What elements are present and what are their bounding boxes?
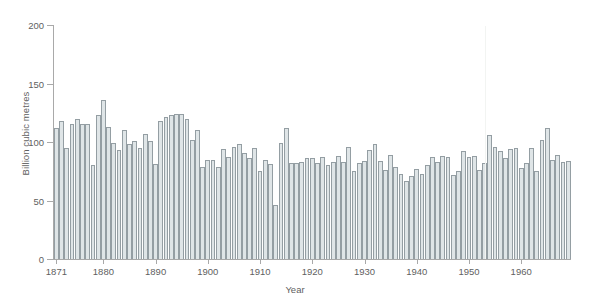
bar xyxy=(310,158,315,259)
bar xyxy=(138,148,143,259)
bar xyxy=(299,162,304,259)
bar xyxy=(367,150,372,259)
bar xyxy=(472,156,477,259)
x-tick-mark xyxy=(521,259,522,264)
bar xyxy=(132,141,137,259)
x-tick-mark xyxy=(56,259,57,264)
bar xyxy=(258,171,263,259)
bar xyxy=(555,155,560,259)
bar xyxy=(477,170,482,259)
bar xyxy=(393,167,398,259)
bar xyxy=(320,157,325,259)
bar xyxy=(529,148,534,259)
bar xyxy=(169,115,174,259)
bar xyxy=(106,127,111,259)
plot-area xyxy=(54,25,571,259)
bar xyxy=(519,168,524,259)
bar xyxy=(451,175,456,259)
bar xyxy=(399,174,404,259)
bar xyxy=(566,161,571,259)
bar xyxy=(279,143,284,259)
bar xyxy=(341,162,346,259)
x-tick-label: 1890 xyxy=(145,266,166,277)
bar xyxy=(91,165,96,259)
bar xyxy=(164,117,169,259)
bar xyxy=(284,128,289,259)
bar xyxy=(127,144,132,259)
bar xyxy=(64,148,69,259)
bar xyxy=(467,157,472,259)
x-tick-mark xyxy=(208,259,209,264)
y-tick-label: 150 xyxy=(4,78,44,89)
bar xyxy=(237,144,242,259)
bar xyxy=(362,161,367,259)
bar xyxy=(305,158,310,259)
bar xyxy=(195,130,200,259)
y-axis-title: Billion cubic metres xyxy=(20,24,31,244)
bar xyxy=(315,163,320,259)
bar xyxy=(80,124,85,259)
bar xyxy=(226,157,231,259)
bar xyxy=(70,124,75,259)
bar xyxy=(425,165,430,259)
y-tick-label: 50 xyxy=(4,195,44,206)
x-tick-mark xyxy=(312,259,313,264)
bar xyxy=(122,130,127,259)
bar xyxy=(273,205,278,259)
x-tick-label: 1910 xyxy=(249,266,270,277)
bar xyxy=(414,169,419,259)
bar xyxy=(326,165,331,259)
bar xyxy=(174,114,179,259)
x-tick-label: 1960 xyxy=(511,266,532,277)
bar xyxy=(404,181,409,259)
x-tick-mark xyxy=(417,259,418,264)
bar xyxy=(493,147,498,259)
bar xyxy=(96,115,101,259)
x-axis-title: Year xyxy=(0,284,590,295)
bar xyxy=(373,144,378,259)
bar xyxy=(242,153,247,259)
bar xyxy=(461,151,466,259)
bar xyxy=(153,164,158,259)
x-tick-mark xyxy=(365,259,366,264)
bar xyxy=(430,157,435,259)
bar xyxy=(216,167,221,259)
bar xyxy=(534,171,539,259)
bar xyxy=(331,162,336,259)
x-tick-label: 1880 xyxy=(93,266,114,277)
x-tick-label: 1950 xyxy=(458,266,479,277)
bar xyxy=(550,160,555,259)
y-tick-label: 100 xyxy=(4,137,44,148)
bar xyxy=(435,162,440,259)
y-tick-label: 200 xyxy=(4,20,44,31)
x-tick-label: 1930 xyxy=(354,266,375,277)
bar xyxy=(388,155,393,259)
bar xyxy=(456,171,461,259)
nile-flow-bar-chart: Billion cubic metres 050100150200 187118… xyxy=(0,0,590,305)
bar xyxy=(232,147,237,259)
x-tick-label: 1900 xyxy=(197,266,218,277)
bar xyxy=(487,135,492,259)
bar xyxy=(190,140,195,259)
x-tick-mark xyxy=(469,259,470,264)
bar xyxy=(75,119,80,259)
bar xyxy=(101,100,106,259)
bar xyxy=(158,121,163,259)
y-tick-mark xyxy=(47,84,54,85)
y-tick-mark xyxy=(47,201,54,202)
bar xyxy=(346,147,351,259)
bar xyxy=(294,163,299,259)
bar xyxy=(185,119,190,259)
bar xyxy=(498,151,503,259)
bar xyxy=(357,163,362,259)
x-tick-mark xyxy=(103,259,104,264)
bar xyxy=(268,164,273,259)
x-tick-label: 1871 xyxy=(46,266,67,277)
bar xyxy=(336,156,341,259)
bar xyxy=(247,158,252,259)
bar xyxy=(117,150,122,259)
x-tick-label: 1920 xyxy=(302,266,323,277)
bar xyxy=(200,167,205,259)
bar xyxy=(111,143,116,259)
bar xyxy=(524,163,529,259)
